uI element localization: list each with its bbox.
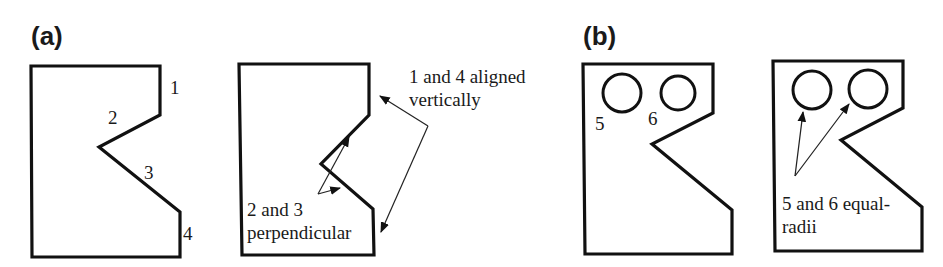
hole-6 (661, 76, 695, 110)
edge-label-3: 3 (144, 162, 154, 183)
hole-6 (849, 70, 887, 108)
panel-label-a: (a) (31, 21, 63, 51)
shape-a-unconstrained: 1 2 3 4 (31, 66, 193, 257)
shape-b-constrained: 5 and 6 equal- radii (773, 61, 922, 251)
part-outline (31, 66, 180, 257)
edge-label-1: 1 (170, 77, 180, 98)
arrow-to-edge-4 (381, 126, 428, 232)
annotation-equal-radii-line2: radii (782, 216, 817, 237)
constraint-diagram: (a) 1 2 3 4 1 and 4 aligned vertically 2… (0, 0, 943, 267)
shape-b-unconstrained: 5 6 (583, 64, 732, 254)
hole-label-6: 6 (648, 108, 658, 129)
edge-label-2: 2 (108, 107, 118, 128)
edge-label-4: 4 (183, 223, 193, 244)
shape-a-constrained: 1 and 4 aligned vertically 2 and 3 perpe… (239, 64, 526, 255)
annotation-perpendicular-line1: 2 and 3 (247, 199, 303, 220)
panel-label-b: (b) (583, 21, 616, 51)
hole-label-5: 5 (595, 113, 605, 134)
annotation-aligned-line2: vertically (409, 89, 481, 110)
hole-5 (793, 71, 831, 109)
annotation-perpendicular-line2: perpendicular (247, 222, 352, 243)
part-outline (583, 64, 732, 254)
annotation-aligned-line1: 1 and 4 aligned (409, 66, 526, 87)
hole-5 (603, 74, 641, 112)
annotation-equal-radii-line1: 5 and 6 equal- (782, 193, 890, 214)
